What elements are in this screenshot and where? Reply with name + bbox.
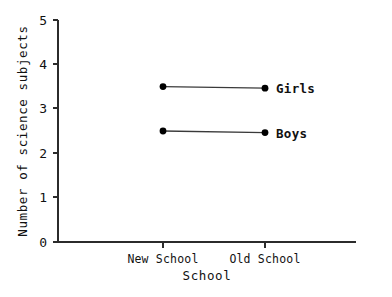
y-tick-label-3: 3: [39, 101, 47, 116]
chart-container: 5 4 3 2 1 0 New School Old School School…: [0, 0, 392, 297]
line-chart-plot: 5 4 3 2 1 0 New School Old School School…: [0, 0, 392, 297]
data-point-boys-new-school: [160, 128, 167, 135]
series-boys: Boys: [160, 126, 308, 141]
series-girls: Girls: [160, 81, 316, 96]
series-line-girls: [163, 87, 265, 89]
data-point-girls-old-school: [262, 85, 269, 92]
y-tick-label-5: 5: [39, 13, 47, 28]
series-label-girls: Girls: [276, 81, 315, 96]
x-tick-label-old-school: Old School: [229, 252, 300, 266]
x-axis-title: School: [183, 268, 232, 283]
y-axis-title: Number of science subjects: [15, 25, 30, 236]
data-point-girls-new-school: [160, 83, 167, 90]
y-tick-label-2: 2: [39, 146, 47, 161]
x-tick-label-new-school: New School: [127, 252, 198, 266]
data-point-boys-old-school: [262, 129, 269, 136]
y-tick-label-4: 4: [39, 57, 47, 72]
series-line-boys: [163, 131, 265, 133]
series-label-boys: Boys: [276, 126, 307, 141]
y-tick-label-1: 1: [39, 190, 47, 205]
y-tick-label-0: 0: [39, 235, 47, 250]
